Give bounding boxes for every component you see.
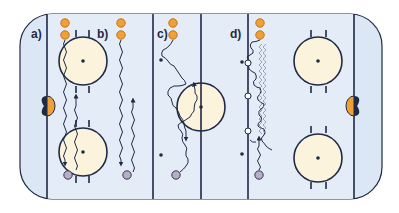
player-icon — [61, 31, 69, 39]
player-icon — [172, 171, 180, 179]
cone-icon — [245, 60, 251, 66]
player-icon — [117, 19, 125, 27]
drill-label-b: b) — [97, 27, 108, 41]
player-icon — [169, 31, 177, 39]
player-icon — [256, 31, 264, 39]
player-icon — [117, 31, 125, 39]
player-icon — [256, 19, 264, 27]
puck-icon — [240, 152, 244, 156]
player-icon — [64, 171, 72, 179]
player-icon — [169, 19, 177, 27]
puck-icon — [159, 58, 163, 62]
drill-label-a: a) — [31, 27, 42, 41]
drill-label-d: d) — [230, 27, 241, 41]
puck-icon — [240, 60, 244, 64]
cone-icon — [245, 93, 251, 99]
player-icon — [61, 19, 69, 27]
puck-icon — [159, 153, 163, 157]
player-icon — [255, 171, 263, 179]
cone-icon — [245, 128, 251, 134]
player-icon — [123, 171, 131, 179]
hockey-rink-diagram: a) b) c) d) — [0, 0, 399, 213]
drill-label-c: c) — [157, 27, 168, 41]
